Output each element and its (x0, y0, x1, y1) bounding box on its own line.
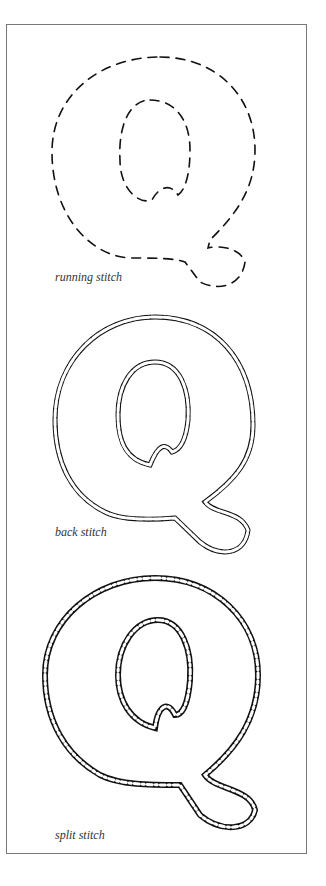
panel-back-stitch: back stitch (0, 280, 326, 580)
caption-back-stitch: back stitch (55, 525, 107, 540)
q-split-stitch-illustration (0, 570, 326, 886)
q-back-stitch-illustration (0, 280, 326, 580)
panel-running-stitch: running stitch (0, 0, 326, 300)
caption-split-stitch: split stitch (55, 828, 105, 843)
q-running-stitch-illustration (0, 0, 326, 300)
panel-split-stitch: split stitch (0, 570, 326, 886)
